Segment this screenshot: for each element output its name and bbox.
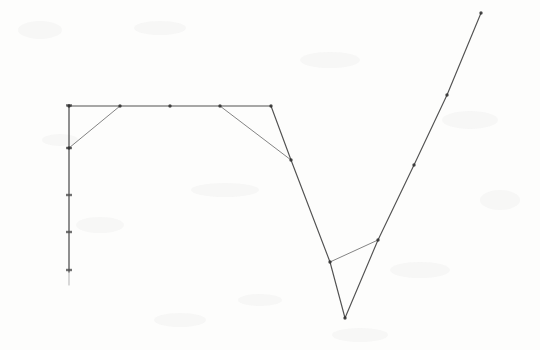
data-point-marker	[218, 104, 221, 107]
data-point-marker	[67, 104, 70, 107]
data-point-marker	[479, 11, 482, 14]
y-axis-tick-2	[66, 194, 72, 196]
series-main-valley	[271, 106, 345, 318]
data-point-marker	[445, 93, 448, 96]
y-axis	[66, 104, 72, 285]
series-valley-chord	[330, 240, 378, 262]
figure-canvas	[0, 0, 540, 350]
data-point-marker	[328, 260, 331, 263]
data-point-marker	[343, 316, 346, 319]
series-rise-to-plateau	[69, 106, 120, 148]
data-point-marker	[376, 238, 379, 241]
y-axis-tick-4	[66, 269, 72, 271]
y-axis-tick-3	[66, 231, 72, 233]
data-point-marker	[412, 163, 415, 166]
series-paths	[69, 13, 481, 318]
data-point-marker	[168, 104, 171, 107]
data-point-marker	[118, 104, 121, 107]
data-point-marker	[269, 104, 272, 107]
line-chart-plot	[0, 0, 540, 350]
series-descent	[220, 106, 291, 160]
data-point-marker	[67, 146, 70, 149]
vertex-marker-group	[67, 11, 482, 319]
data-point-marker	[289, 158, 292, 161]
